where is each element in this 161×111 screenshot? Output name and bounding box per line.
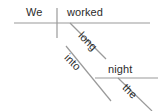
- word-subject-we: We: [26, 7, 43, 18]
- sentence-diagram: We worked long into night the: [0, 0, 161, 111]
- word-object-night: night: [108, 64, 132, 75]
- word-verb-worked: worked: [67, 7, 103, 18]
